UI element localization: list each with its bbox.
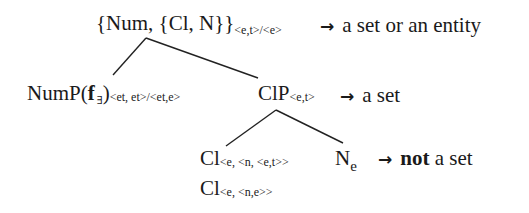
root-node: {Num, {Cl, N}}<e,t>/<e> [96, 13, 282, 34]
nump-label-suffix: ) [103, 81, 110, 105]
cl2-type: <e, <n,e>> [220, 185, 273, 199]
clp-label: ClP [258, 81, 290, 105]
nump-type: <et, et>/<et,e> [110, 90, 181, 104]
n-label: N [335, 146, 350, 170]
right-arrow-icon: → [320, 16, 334, 36]
clp-type: <e,t> [290, 90, 315, 104]
cl1-label: Cl [200, 146, 220, 170]
right-arrow-icon: → [378, 149, 392, 169]
right-arrow-icon: → [340, 86, 354, 106]
clp-gloss: a set [362, 83, 400, 107]
root-gloss: a set or an entity [342, 13, 481, 37]
edge-root-nump [113, 38, 146, 75]
nump-label-prefix: NumP( [27, 81, 88, 105]
root-annotation: → a set or an entity [320, 15, 481, 36]
cl2-label: Cl [200, 176, 220, 200]
clp-annotation: → a set [340, 85, 400, 106]
cl-node-2: Cl<e, <n,e>> [200, 178, 273, 199]
n-type: e [350, 158, 357, 174]
root-type: <e,t>/<e> [234, 23, 281, 37]
cl-node-1: Cl<e, <n, <e,t>> [200, 148, 289, 169]
existential-subscript: ∃ [97, 94, 103, 106]
root-label: {Num, {Cl, N}} [96, 11, 234, 35]
clp-node: ClP<e,t> [258, 83, 315, 104]
n-gloss-not: not [400, 146, 429, 170]
edge-clp-n [276, 110, 343, 143]
n-annotation: → not a set [378, 148, 473, 169]
n-gloss-rest: a set [429, 146, 472, 170]
nump-node: NumP(f∃)<et, et>/<et,e> [27, 83, 180, 104]
edge-clp-cl [226, 110, 276, 146]
edge-root-clp [146, 38, 258, 78]
nump-f: f [88, 81, 95, 105]
cl1-type: <e, <n, <e,t>> [220, 155, 289, 169]
n-node: Ne [335, 148, 357, 169]
